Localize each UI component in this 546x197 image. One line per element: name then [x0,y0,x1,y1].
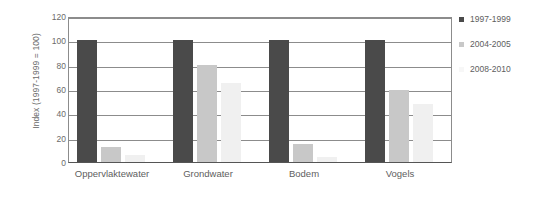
bar [365,40,385,162]
legend-item[interactable]: 1997-1999 [459,14,545,39]
x-axis-tick-label: Grondwater [183,168,233,179]
y-axis-tick-label: 0 [38,159,66,168]
bar-group [365,18,433,162]
x-axis-tick-label: Bodem [289,168,319,179]
bar [413,104,433,162]
legend-item-label: 2008-2010 [470,64,511,74]
y-axis-tick-label: 100 [38,37,66,46]
bar [197,65,217,162]
legend-item[interactable]: 2008-2010 [459,64,545,89]
legend-swatch-icon [459,42,464,47]
legend: 1997-19992004-20052008-2010 [459,14,545,89]
bar-chart: Index (1997-1999 = 100) 020406080100120 … [0,0,546,197]
bar-group [173,18,241,162]
y-axis-tick-label: 40 [38,110,66,119]
y-axis-tick-labels: 020406080100120 [38,17,66,163]
bar [77,40,97,162]
legend-item-label: 1997-1999 [470,14,511,24]
bar [317,157,337,162]
bar [389,90,409,162]
legend-swatch-icon [459,67,464,72]
x-axis-tick-label: Vogels [386,168,415,179]
bars-layer [69,18,451,162]
bar [173,40,193,162]
y-axis-tick-label: 60 [38,86,66,95]
legend-item[interactable]: 2004-2005 [459,39,545,64]
plot-area [68,17,452,163]
bar [269,40,289,162]
bar [293,144,313,162]
y-axis-tick-label: 120 [38,13,66,22]
bar [101,147,121,162]
bar [125,155,145,162]
y-axis-tick-label: 80 [38,61,66,70]
bar-group [77,18,145,162]
x-axis-tick-labels: OppervlaktewaterGrondwaterBodemVogels [68,168,452,188]
bar-group [269,18,337,162]
y-axis-tick-label: 20 [38,134,66,143]
legend-item-label: 2004-2005 [470,39,511,49]
x-axis-tick-label: Oppervlaktewater [75,168,149,179]
legend-swatch-icon [459,17,464,22]
bar [221,83,241,162]
